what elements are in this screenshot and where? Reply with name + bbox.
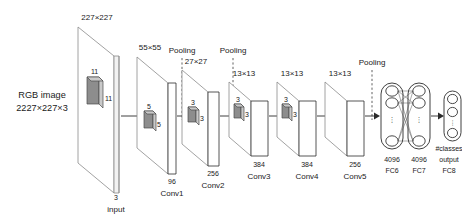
fc6-fc7-edges [398,91,413,141]
arrow-conv5-fc6 [365,113,380,120]
fc8-caption: FC8 [442,167,455,174]
conv4-block [277,82,316,156]
conv5-plane [325,82,347,156]
input-size-label: 227×227 [81,13,113,22]
conv2-face [208,92,219,166]
conv4-caption: Conv4 [295,172,319,181]
conv3-kernel-side-label: 3 [245,111,249,118]
conv2-caption: Conv2 [201,181,225,190]
conv3-plane [229,82,251,156]
fc7-ellipsis: ⋮ [416,116,423,123]
input-kernel-side [99,77,103,108]
pooling-2-label: Pooling [220,46,247,55]
fc6-units: 4096 [384,156,400,163]
conv1-kernel-top-label: 5 [147,103,151,110]
conv5-face [347,101,364,156]
conv4-kernel-side-label: 3 [293,111,297,118]
conv1-channels: 96 [168,178,176,185]
diagram-canvas: 227×227 11 11 RGB image 2227×227×3 3 inp… [0,0,462,218]
fc8-ellipsis: ⋮ [449,119,455,126]
conv2-kernel-group [188,107,199,125]
conv2-size-label: 27×27 [185,57,208,66]
conv5-channels: 256 [349,161,361,168]
conv3-block [229,82,268,156]
conv4-face [299,101,316,156]
conv1-block [137,57,176,174]
input-depth-label: 3 [114,194,118,201]
conv5-caption: Conv5 [343,172,367,181]
rgb-image-dims: 2227×227×3 [16,103,68,113]
fc6-ellipsis: ⋮ [389,116,396,123]
conv1-face [168,83,176,174]
conv1-size-label: 55×55 [139,43,162,52]
input-plane-group [78,27,119,193]
conv1-kernel-group [144,111,156,131]
fc8-units: output [439,156,459,164]
fc8-nodes [448,94,458,137]
input-kernel-top-label: 11 [91,68,98,75]
conv4-channels: 384 [301,161,313,168]
input-kernel-side-label: 11 [105,95,112,102]
input-caption: input [107,205,125,214]
conv2-kernel-side-label: 3 [200,115,204,122]
conv2-channels: 256 [207,170,219,177]
fc7-caption: FC7 [412,167,425,174]
conv3-channels: 384 [253,161,265,168]
conv4-kernel-top-label: 3 [284,96,288,103]
conv4-plane [277,82,299,156]
conv3-caption: Conv3 [247,172,271,181]
input-kernel-group [87,77,103,108]
pooling-3-label: Pooling [359,58,386,67]
pooling-1-label: Pooling [169,46,196,55]
conv3-size-label: 13×13 [233,69,256,78]
input-plane-depth [114,56,119,193]
input-plane-face [78,27,114,193]
fc7-units: 4096 [411,156,427,163]
conv1-kernel-side-label: 5 [157,121,161,128]
arrow-fc7-fc8 [431,113,444,120]
conv1-caption: Conv1 [160,189,184,198]
fc8-classes-label: #classes [435,145,462,152]
conv2-kernel-top-label: 3 [191,99,195,106]
alexnet-diagram: 227×227 11 11 RGB image 2227×227×3 3 inp… [0,0,462,218]
conv3-kernel-top-label: 3 [236,96,240,103]
conv5-block [325,82,364,156]
fc6-caption: FC6 [385,167,398,174]
conv4-size-label: 13×13 [281,69,304,78]
conv3-face [251,101,268,156]
rgb-image-label: RGB image [18,90,66,100]
conv5-size-label: 13×13 [329,69,352,78]
